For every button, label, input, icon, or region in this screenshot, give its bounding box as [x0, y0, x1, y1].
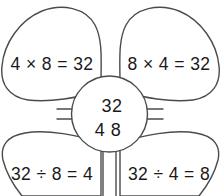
fact-family-flower-diagram: 4 × 8 = 32 8 × 4 = 32 32 ÷ 8 = 4 32 ÷ 4 …	[0, 0, 221, 196]
center-factors-label: 4 8	[95, 120, 122, 140]
petal-label-top-right: 8 × 4 = 32	[128, 54, 211, 74]
petal-label-bottom-left: 32 ÷ 8 = 4	[11, 164, 93, 184]
petal-label-bottom-right: 32 ÷ 4 = 8	[128, 164, 210, 184]
center-product-label: 32	[101, 96, 122, 116]
flower-diagram-canvas: 4 × 8 = 32 8 × 4 = 32 32 ÷ 8 = 4 32 ÷ 4 …	[0, 0, 221, 196]
petal-label-top-left: 4 × 8 = 32	[11, 54, 94, 74]
